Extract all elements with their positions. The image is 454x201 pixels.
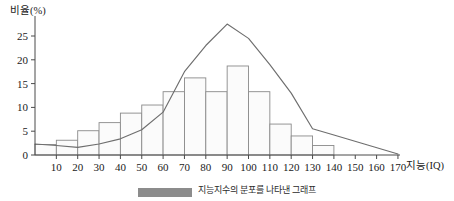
histogram-bar [249, 92, 270, 155]
histogram-bar [227, 66, 248, 155]
histogram-bar [163, 92, 184, 155]
y-axis-tick-label: 15 [17, 78, 29, 90]
x-axis-tick-label: 170 [390, 161, 407, 173]
histogram-bar [99, 123, 120, 155]
x-axis-tick-label: 80 [200, 161, 212, 173]
histogram-bar [78, 131, 99, 155]
y-axis-tick-label: 10 [17, 101, 29, 113]
histogram-bar [291, 136, 312, 155]
x-axis-tick-label: 90 [222, 161, 234, 173]
x-axis-tick-label: 20 [72, 161, 84, 173]
histogram-bar [206, 92, 227, 155]
x-axis-tick-label: 10 [51, 161, 63, 173]
x-axis-title: 지능(IQ) [406, 160, 445, 172]
x-axis-tick-label: 160 [368, 161, 385, 173]
x-axis-tick-label: 30 [94, 161, 106, 173]
histogram-bar [313, 145, 334, 155]
histogram-bar [142, 105, 163, 155]
y-axis-tick-label: 20 [17, 54, 29, 66]
histogram-bar [184, 78, 205, 155]
y-axis-title: 비율(%) [10, 5, 46, 17]
histogram-bars [35, 66, 334, 155]
x-axis-tick-label: 70 [179, 161, 191, 173]
iq-distribution-chart: 0510152025 10203040506070809010011012013… [0, 0, 454, 201]
y-axis-tick-label: 0 [23, 149, 29, 161]
x-axis-tick-label: 150 [347, 161, 364, 173]
y-axis-tick-label: 25 [17, 30, 29, 42]
x-axis-tick-label: 140 [326, 161, 343, 173]
x-axis-ticks: 1020304050607080901001101201301401501601… [51, 155, 407, 173]
x-axis-tick-label: 110 [262, 161, 279, 173]
x-axis-tick-label: 40 [115, 161, 127, 173]
histogram-bar [35, 145, 56, 155]
chart-caption: 지능지수의 분포를 나타낸 그래프 [0, 185, 454, 201]
y-axis-tick-label: 5 [23, 125, 29, 137]
x-axis-tick-label: 100 [240, 161, 257, 173]
x-axis-tick-label: 60 [158, 161, 170, 173]
x-axis-tick-label: 50 [136, 161, 148, 173]
histogram-bar [270, 124, 291, 155]
y-axis-ticks: 0510152025 [17, 30, 35, 161]
caption-text: 지능지수의 분포를 나타낸 그래프 [198, 185, 317, 196]
x-axis-tick-label: 120 [283, 161, 300, 173]
chart-canvas: 0510152025 10203040506070809010011012013… [0, 0, 454, 201]
x-axis-tick-label: 130 [304, 161, 321, 173]
caption-swatch [138, 188, 192, 197]
